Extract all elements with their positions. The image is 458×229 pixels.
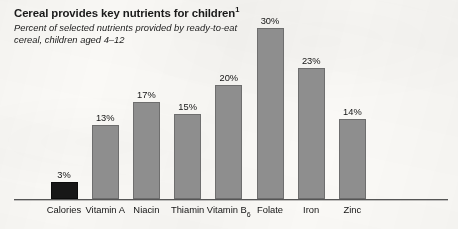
x-axis-category-label: Niacin (133, 204, 159, 215)
bar-group[interactable]: 17% (133, 102, 160, 199)
bar[interactable] (215, 85, 242, 199)
x-axis-category-label: Calories (47, 204, 81, 215)
bar-group[interactable]: 14% (339, 119, 366, 199)
bar-value-label: 23% (302, 56, 321, 66)
x-axis-category-label: Zinc (344, 204, 362, 215)
x-axis-category-label: Folate (257, 204, 283, 215)
x-axis-category-label: Vitamin B6 (207, 204, 251, 215)
bar-chart-plot: 3%13%17%15%20%30%23%14% CaloriesVitamin … (0, 0, 458, 229)
bar-group[interactable]: 13% (92, 125, 119, 199)
bar-group[interactable]: 30% (257, 28, 284, 199)
bar-value-label: 14% (343, 107, 362, 117)
bar-value-label: 17% (137, 90, 156, 100)
bar-group[interactable]: 15% (174, 114, 201, 200)
bar-value-label: 3% (57, 170, 70, 180)
bar-group[interactable]: 23% (298, 68, 325, 199)
x-axis-category-label: Vitamin A (85, 204, 124, 215)
bar[interactable] (257, 28, 284, 199)
bar[interactable] (174, 114, 201, 200)
bar[interactable] (339, 119, 366, 199)
bar[interactable] (298, 68, 325, 199)
bar-group[interactable]: 20% (215, 85, 242, 199)
chart-figure: Cereal provides key nutrients for childr… (0, 0, 458, 229)
bar[interactable] (92, 125, 119, 199)
bar-value-label: 15% (178, 102, 197, 112)
bar-value-label: 13% (96, 113, 115, 123)
bar-group[interactable]: 3% (51, 182, 78, 199)
bar-value-label: 30% (261, 16, 280, 26)
x-axis-line (14, 199, 448, 200)
bar[interactable] (51, 182, 78, 199)
x-axis-category-label: Thiamin (171, 204, 204, 215)
x-axis-category-label: Iron (303, 204, 319, 215)
bar[interactable] (133, 102, 160, 199)
bar-value-label: 20% (219, 73, 238, 83)
category-label-subscript: 6 (247, 211, 251, 218)
